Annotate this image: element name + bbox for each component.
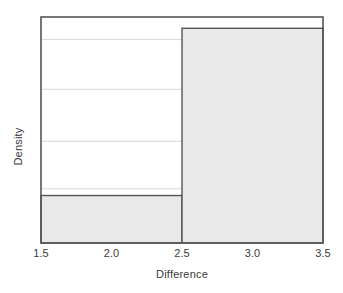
x-axis-label: Difference [41,268,323,280]
x-axis-tick-labels: 1.52.02.53.03.5 [0,247,343,261]
histogram-bar-0 [41,196,182,243]
x-tick-label-4: 3.5 [315,247,330,259]
histogram-figure: Density 1.52.02.53.03.5 Difference [0,0,343,293]
histogram-bar-1 [182,28,323,243]
x-tick-label-3: 3.0 [245,247,260,259]
x-tick-label-0: 1.5 [33,247,48,259]
x-tick-label-2: 2.5 [174,247,189,259]
x-tick-label-1: 2.0 [104,247,119,259]
